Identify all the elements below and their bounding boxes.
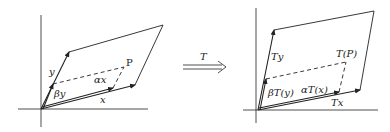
right-parallelogram-right [360, 11, 374, 90]
left-diagram [18, 15, 163, 127]
right-diagram [243, 8, 378, 123]
right-dashed-beta-to-TP [266, 62, 346, 79]
left-parallelogram-right [135, 25, 163, 85]
linear-map-diagram: y βy αx x P T Ty T(P) βT(y) αT(x) Tx [0, 0, 390, 132]
label-Tx: Tx [331, 97, 344, 108]
map-arrow-label: T [200, 51, 208, 62]
label-beta-y: βy [53, 88, 66, 99]
label-beta-Ty: βT(y) [267, 87, 294, 98]
label-alpha-x: αx [94, 74, 107, 85]
right-parallelogram-top [274, 11, 374, 30]
vector-Ty [258, 30, 274, 110]
label-P: P [126, 57, 133, 68]
map-arrow [183, 61, 226, 73]
label-y: y [48, 66, 55, 77]
label-TP: T(P) [336, 48, 357, 59]
label-alpha-Tx: αT(x) [301, 84, 328, 95]
left-dashed-beta-to-P [53, 67, 124, 84]
left-dashed-alpha-to-P [113, 67, 124, 88]
label-x: x [100, 94, 106, 105]
label-Ty: Ty [271, 51, 284, 62]
right-dashed-alpha-to-TP [339, 62, 346, 92]
left-parallelogram-top [69, 25, 163, 52]
